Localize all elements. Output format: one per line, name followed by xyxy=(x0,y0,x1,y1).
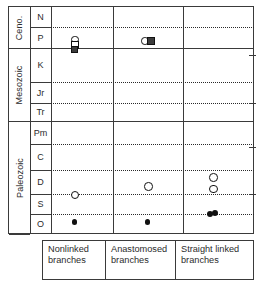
period-cell-o: O xyxy=(30,214,51,234)
period-label: O xyxy=(37,219,44,229)
edge-tick-s xyxy=(249,194,256,195)
period-label: C xyxy=(37,152,44,162)
period-label: P xyxy=(37,33,43,43)
period-sep-s-o xyxy=(30,214,51,215)
period-sep-jr-tr xyxy=(30,103,51,104)
column-header-label: Nonlinked branches xyxy=(48,244,89,265)
data-marker-nonlinked-o-filled-circle xyxy=(72,219,78,225)
period-label: Pm xyxy=(34,128,48,138)
boundary-line-mesozoic-paleozoic xyxy=(30,121,254,122)
boundary-line-d-s xyxy=(51,194,254,195)
data-marker-straight-d-open-circle-upper xyxy=(209,173,218,182)
edge-tick-tr xyxy=(249,103,256,104)
period-label: N xyxy=(37,12,44,22)
period-sep-c-d xyxy=(30,170,51,171)
period-label: Jr xyxy=(37,88,45,98)
period-cell-d: D xyxy=(30,170,51,194)
period-cell-c: C xyxy=(30,144,51,170)
column-header-nonlinked: Nonlinked branches xyxy=(43,241,105,279)
boundary-line-jr-tr xyxy=(51,103,254,104)
grid-vrule-col2-col3 xyxy=(183,7,184,233)
column-header-label: Straight linked branches xyxy=(181,244,239,265)
data-marker-straight-d-open-circle-lower xyxy=(209,185,218,194)
column-header-row: Nonlinked branches Anastomosed branches … xyxy=(42,240,254,280)
boundary-line-p-k xyxy=(51,48,254,49)
period-sep-p-k xyxy=(30,48,51,49)
era-cell-mesozoic: Mesozoic xyxy=(9,48,30,122)
data-marker-nonlinked-d-open-circle xyxy=(71,191,79,199)
period-cell-tr: Tr xyxy=(30,103,51,121)
era-label: Paleozoic xyxy=(15,158,25,198)
period-label: D xyxy=(37,177,44,187)
edge-tick-c xyxy=(249,147,256,148)
period-cell-pm: Pm xyxy=(30,121,51,144)
column-header-anastomosed: Anastomosed branches xyxy=(106,241,175,279)
period-sep-pm-c xyxy=(30,144,51,145)
data-marker-straight-o-filled-circle-right xyxy=(212,210,218,216)
geologic-range-chart: Ceno. Mesozoic Paleozoic N P K Jr Tr Pm … xyxy=(0,0,262,283)
period-cell-p: P xyxy=(30,27,51,48)
boundary-line-k-jr xyxy=(51,82,254,83)
era-cell-cenozoic: Ceno. xyxy=(9,7,30,49)
timescale-grid: Ceno. Mesozoic Paleozoic N P K Jr Tr Pm … xyxy=(8,6,254,234)
boundary-line-pm-c xyxy=(51,144,254,145)
period-cell-s: S xyxy=(30,194,51,214)
boundary-line-n-p xyxy=(51,27,254,28)
data-marker-anastomosed-p-filled-square xyxy=(147,37,155,45)
period-cell-k: K xyxy=(30,48,51,82)
period-sep-k-jr xyxy=(30,82,51,83)
column-header-label: Anastomosed branches xyxy=(111,244,167,265)
data-marker-anastomosed-d-open-circle xyxy=(144,182,153,191)
boundary-line-s-o xyxy=(51,214,254,215)
period-sep-n-p xyxy=(30,27,51,28)
grid-vrule-col1-col2 xyxy=(113,7,114,233)
edge-tick-k xyxy=(249,55,256,56)
period-cell-n: N xyxy=(30,7,51,27)
era-label: Ceno. xyxy=(15,15,25,40)
period-label: S xyxy=(37,199,43,209)
data-marker-anastomosed-o-filled-circle xyxy=(145,219,151,225)
period-label: Tr xyxy=(36,107,44,117)
period-sep-d-s xyxy=(30,194,51,195)
period-cell-jr: Jr xyxy=(30,82,51,103)
grid-vrule-period-data xyxy=(51,7,52,233)
data-marker-nonlinked-p-filled-square xyxy=(71,46,78,53)
column-header-straight: Straight linked branches xyxy=(176,241,254,279)
era-label: Mesozoic xyxy=(15,65,25,104)
period-label: K xyxy=(37,60,43,70)
boundary-line-c-d xyxy=(51,170,254,171)
era-cell-paleozoic: Paleozoic xyxy=(9,121,30,235)
